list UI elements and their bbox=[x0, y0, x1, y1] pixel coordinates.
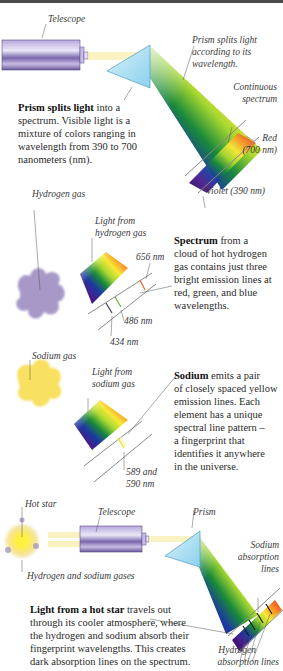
sodium-lines-label-1: 589 and bbox=[126, 466, 157, 478]
prism-label: Prism bbox=[193, 506, 216, 518]
caption-prism: Prism splits light into a spectrum. Visi… bbox=[18, 101, 168, 166]
sodium-cloud bbox=[17, 359, 61, 406]
prism-1 bbox=[107, 45, 150, 88]
line-486-label: 486 nm bbox=[124, 315, 152, 327]
telescope-2-label: Telescope bbox=[98, 506, 135, 518]
hydrogen-gas-label: Hydrogen gas bbox=[32, 188, 85, 200]
telescope-label: Telescope bbox=[48, 13, 85, 25]
light-from-hydrogen-label-2: hydrogen gas bbox=[95, 227, 146, 239]
caption-prism-bold: Prism splits light bbox=[18, 102, 94, 113]
hot-star-label: Hot star bbox=[25, 498, 56, 510]
sodium-absorption-label-3: lines bbox=[261, 563, 279, 575]
caption-hot-star-bold: Light from a hot star bbox=[30, 604, 124, 615]
sodium-gas-label: Sodium gas bbox=[32, 350, 76, 362]
light-from-sodium-label-1: Light from bbox=[92, 366, 132, 378]
hydrogen-cloud bbox=[16, 268, 64, 318]
red-label: Red bbox=[262, 132, 277, 144]
sodium-lines-label-2: 590 nm bbox=[126, 478, 154, 490]
red-wavelength-label: (700 nm) bbox=[242, 144, 277, 156]
hydrogen-absorption-label-1: Hydrogen bbox=[218, 644, 256, 656]
gases-label: Hydrogen and sodium gases bbox=[27, 570, 135, 582]
emission-line-434 bbox=[106, 303, 112, 313]
emission-line-486 bbox=[115, 297, 121, 307]
continuous-spectrum-label-1: Continuous bbox=[233, 81, 277, 93]
telescope-1 bbox=[2, 40, 88, 70]
light-from-hydrogen-label-1: Light from bbox=[95, 215, 135, 227]
light-from-sodium-label-2: sodium gas bbox=[92, 378, 135, 390]
prism-note-line2: according to its bbox=[192, 46, 251, 58]
line-656-label: 656 nm bbox=[136, 251, 164, 263]
line-434-label: 434 nm bbox=[110, 336, 138, 348]
caption-sodium-bold: Sodium bbox=[174, 370, 208, 381]
telescope-2 bbox=[80, 526, 149, 552]
violet-label: Violet (390 nm) bbox=[206, 185, 265, 197]
sodium-absorption-label-1: Sodium bbox=[251, 539, 280, 551]
caption-hydrogen: Spectrum from a cloud of hot hydrogen ga… bbox=[174, 234, 283, 312]
caption-hydrogen-bold: Spectrum bbox=[174, 235, 218, 246]
sodium-absorption-label-2: absorption bbox=[238, 551, 279, 563]
hydrogen-absorption-label-2: absorption lines bbox=[218, 656, 280, 668]
prism-note-line3: wavelength. bbox=[192, 58, 238, 70]
emission-line-656 bbox=[140, 280, 145, 290]
continuous-spectrum-label-2: spectrum bbox=[242, 93, 277, 105]
prism-note-line1: Prism splits light bbox=[192, 34, 257, 46]
caption-sodium: Sodium emits a pair of closely spaced ye… bbox=[174, 369, 283, 473]
caption-hot-star: Light from a hot star travels out throug… bbox=[30, 603, 200, 668]
